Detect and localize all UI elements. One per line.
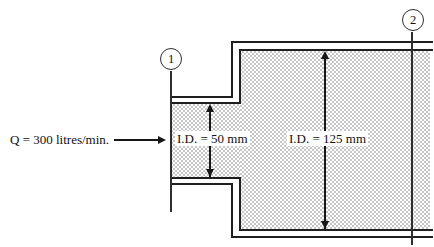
small-pipe-top-outer-wall — [171, 96, 233, 98]
expansion-step-bottom-inner-wall — [239, 177, 241, 231]
large-pipe-id-label: I.D. = 125 mm — [287, 131, 368, 146]
flow-arrow-head — [158, 136, 166, 144]
small-pipe-bottom-outer-wall — [171, 183, 233, 185]
dimension-arrow-125mm-down-head — [321, 221, 329, 229]
flow-rate-label: Q = 300 litres/min. — [8, 132, 111, 147]
expansion-step-top-inner-wall — [239, 49, 241, 104]
large-pipe-top-outer-wall — [231, 41, 433, 43]
small-pipe-bottom-inner-wall — [171, 177, 241, 179]
dimension-arrow-50mm-down-head — [206, 169, 214, 177]
small-pipe-id-label: I.D. = 50 mm — [175, 131, 250, 146]
large-pipe-bottom-inner-wall — [239, 229, 433, 231]
large-pipe-bottom-outer-wall — [231, 236, 433, 238]
section-marker-2-label: 2 — [410, 14, 416, 27]
section-marker-1-label: 1 — [168, 53, 174, 66]
pipe-expansion-diagram: 1 2 Q = 300 litres/min. I.D. = 50 mm I.D… — [0, 0, 434, 247]
expansion-step-top-outer-wall — [231, 41, 233, 98]
section-marker-2: 2 — [402, 9, 424, 31]
flow-arrow-shaft — [114, 139, 159, 141]
expansion-step-bottom-outer-wall — [231, 183, 233, 238]
large-pipe-top-inner-wall — [239, 49, 433, 51]
section-marker-1: 1 — [160, 48, 182, 70]
section-line-1 — [170, 71, 172, 212]
section-line-2 — [411, 32, 413, 245]
dimension-arrow-125mm-up-head — [321, 51, 329, 59]
dimension-arrow-50mm-up-head — [206, 104, 214, 112]
